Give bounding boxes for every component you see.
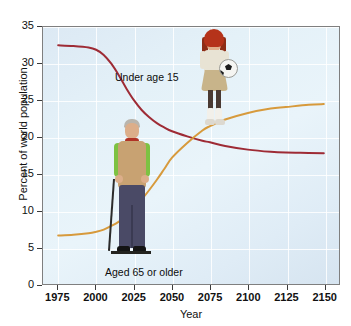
girl-shoe-left — [205, 119, 215, 125]
x-tick-label: 2050 — [152, 292, 192, 303]
y-tick-label: 30 — [8, 57, 34, 68]
y-tick-label: 5 — [8, 242, 34, 253]
annotation-under-age-15: Under age 15 — [115, 72, 179, 83]
girl-with-soccer-ball-illustration — [191, 29, 237, 129]
elderly-man-with-cane-illustration — [105, 119, 157, 261]
man-ground-shadow — [111, 251, 151, 254]
x-tick-mark — [248, 285, 249, 290]
x-tick-mark — [287, 285, 288, 290]
y-tick-label: 35 — [8, 20, 34, 31]
man-hand-left — [115, 175, 123, 183]
y-tick-label: 0 — [8, 279, 34, 290]
x-axis-title: Year — [42, 308, 340, 320]
x-tick-mark — [57, 285, 58, 290]
x-tick-label: 2125 — [267, 292, 307, 303]
y-tick-label: 15 — [8, 168, 34, 179]
man-hand-right — [141, 175, 149, 183]
man-trousers-seam — [131, 205, 133, 248]
girl-leg-left — [208, 90, 213, 109]
x-tick-label: 2000 — [75, 292, 115, 303]
x-tick-label: 2075 — [190, 292, 230, 303]
y-tick-label: 25 — [8, 94, 34, 105]
x-tick-mark — [210, 285, 211, 290]
y-tick-mark — [37, 285, 42, 286]
girl-leg-right — [216, 90, 221, 109]
x-tick-label: 2150 — [305, 292, 345, 303]
x-tick-label: 2025 — [114, 292, 154, 303]
girl-shoe-right — [215, 119, 225, 125]
x-tick-mark — [95, 285, 96, 290]
chart-figure: Percent of world population 051015202530… — [0, 0, 351, 326]
cane-icon — [108, 179, 115, 251]
x-tick-mark — [325, 285, 326, 290]
annotation-aged-65-or-older: Aged 65 or older — [105, 267, 183, 278]
y-tick-label: 10 — [8, 205, 34, 216]
x-tick-label: 1975 — [37, 292, 77, 303]
y-tick-label: 20 — [8, 131, 34, 142]
soccer-ball-icon — [219, 59, 238, 78]
man-face — [125, 123, 139, 139]
x-tick-mark — [134, 285, 135, 290]
girl-hair — [204, 29, 224, 47]
plot-area: Under age 15 Aged 65 or older — [42, 26, 340, 285]
x-tick-label: 2100 — [228, 292, 268, 303]
x-tick-mark — [172, 285, 173, 290]
